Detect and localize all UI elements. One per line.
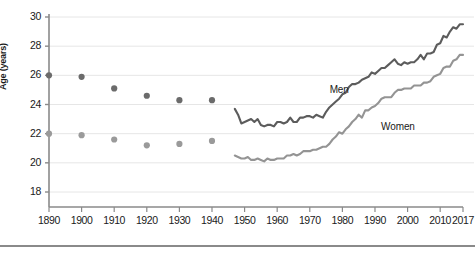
y-tick-label: 30 [17, 10, 41, 22]
series-label-women: Women [381, 121, 415, 132]
y-tick-label: 26 [17, 68, 41, 80]
x-tick-label: 1910 [97, 214, 131, 226]
x-tick-label: 1940 [195, 214, 229, 226]
x-tick-label: 1990 [358, 214, 392, 226]
footer-divider [0, 245, 475, 247]
y-tick-label: 18 [17, 185, 41, 197]
x-tick-label: 2017 [446, 214, 475, 226]
y-tick-label: 20 [17, 156, 41, 168]
x-tick-label: 1960 [260, 214, 294, 226]
x-tick-label: 2000 [391, 214, 425, 226]
x-tick-label: 1970 [293, 214, 327, 226]
x-tick-label: 1890 [32, 214, 66, 226]
x-tick-label: 1950 [228, 214, 262, 226]
x-tick-label: 1900 [65, 214, 99, 226]
x-tick-label: 1920 [130, 214, 164, 226]
chart-figure: Age (years) 30282624222018 1890190019101… [0, 0, 475, 253]
y-tick-label: 24 [17, 98, 41, 110]
x-tick-label: 1980 [325, 214, 359, 226]
y-tick-label: 22 [17, 127, 41, 139]
x-tick-label: 1930 [162, 214, 196, 226]
y-axis-title: Age (years) [0, 0, 8, 90]
series-label-men: Men [330, 84, 349, 95]
y-tick-label: 28 [17, 39, 41, 51]
